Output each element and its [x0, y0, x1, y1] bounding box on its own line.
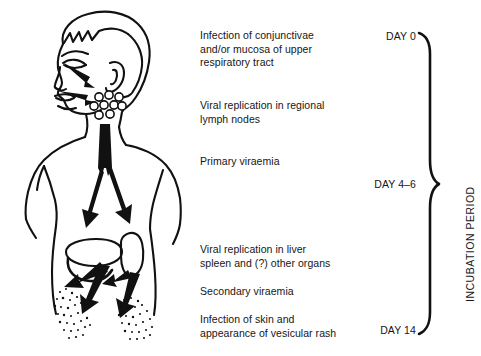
diagram-canvas: Infection of conjunctivae and/or mucosa … [0, 0, 481, 356]
incubation-period-brace [0, 0, 481, 356]
incubation-period-label: INCUBATION PERIOD [464, 186, 476, 302]
